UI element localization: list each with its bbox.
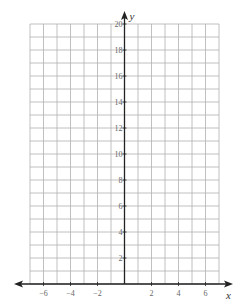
y-tick-label: 10 [115,150,123,159]
axes [14,11,233,288]
x-tick-label: 6 [204,289,208,298]
y-axis-label: y [129,10,135,22]
y-tick-label: 18 [115,46,123,55]
y-tick-label: 20 [115,20,123,29]
x-tick-label: −6 [39,289,48,298]
y-tick-label: 14 [115,98,123,107]
y-tick-label: 16 [115,72,123,81]
y-tick-label: 12 [115,124,123,133]
x-tick-label: −4 [66,289,75,298]
y-tick-label: 6 [119,202,123,211]
y-tick-label: 4 [119,228,123,237]
coordinate-grid: −6−4−22462468101214161820 x y [0,0,247,307]
tick-labels: −6−4−22462468101214161820 [39,20,207,298]
y-tick-label: 2 [119,254,123,263]
x-tick-label: 4 [177,289,181,298]
x-tick-label: −2 [93,289,102,298]
y-tick-label: 8 [119,176,123,185]
x-tick-label: 2 [150,289,154,298]
x-axis-label: x [225,289,231,301]
